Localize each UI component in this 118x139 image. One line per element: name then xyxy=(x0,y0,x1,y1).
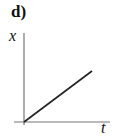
data-line xyxy=(24,71,92,122)
position-time-graph xyxy=(0,0,118,139)
